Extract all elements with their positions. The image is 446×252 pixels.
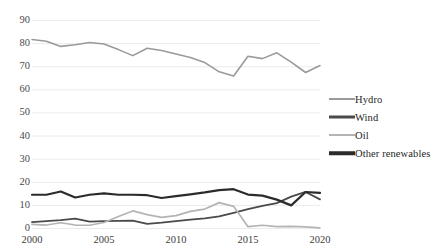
line-chart: 0102030405060708090 20002005201020152020… — [0, 0, 446, 252]
x-tick-label: 2010 — [154, 234, 198, 245]
legend-item-wind[interactable]: Wind — [329, 108, 446, 126]
legend-label: Oil — [355, 130, 369, 141]
legend-item-hydro[interactable]: Hydro — [329, 90, 446, 108]
legend-swatch-icon — [329, 130, 355, 140]
legend-swatch-icon — [329, 148, 355, 158]
x-tick-label: 2015 — [226, 234, 270, 245]
legend-swatch-icon — [329, 112, 355, 122]
legend-label: Other renewables — [355, 148, 430, 159]
legend-item-oil[interactable]: Oil — [329, 126, 446, 144]
legend-swatch-icon — [329, 94, 355, 104]
x-tick-label: 2020 — [298, 234, 342, 245]
legend-item-other-renewables[interactable]: Other renewables — [329, 144, 446, 162]
x-tick-label: 2005 — [82, 234, 126, 245]
legend-label: Wind — [355, 112, 378, 123]
legend-label: Hydro — [355, 94, 382, 105]
chart-legend: HydroWindOilOther renewables — [329, 90, 446, 162]
x-tick-label: 2000 — [10, 234, 54, 245]
